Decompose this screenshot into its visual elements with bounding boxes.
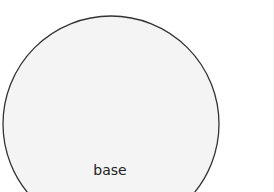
diagram-canvas: base: [0, 0, 274, 192]
base-circle-label: base: [70, 162, 150, 178]
adjacent-shape-edge: [273, 0, 274, 192]
